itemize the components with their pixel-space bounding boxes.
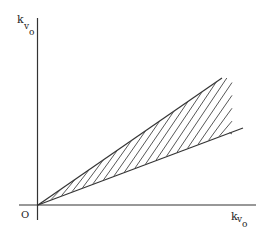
hatch-shading <box>51 78 232 200</box>
origin-label: O <box>21 210 29 220</box>
upper-boundary-line <box>38 78 222 205</box>
wedge-plot <box>0 0 269 239</box>
lower-boundary-line <box>38 128 243 205</box>
diagram: k v o O k v o <box>0 0 269 239</box>
